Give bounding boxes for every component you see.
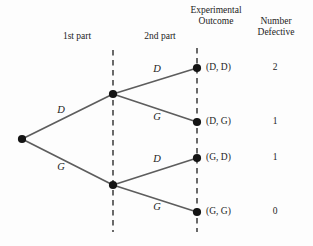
tree-nodes: [18, 64, 201, 216]
node-outcome-dd: [193, 64, 201, 72]
header-experimental-outcome-line2: Outcome: [185, 16, 247, 26]
branch-label-stage1-defective: D: [53, 104, 69, 115]
header-experimental-outcome-line1: Experimental: [185, 5, 247, 15]
node-first-good: [109, 181, 117, 189]
tree-branches: [22, 68, 197, 212]
count-value-dd: 2: [268, 62, 282, 72]
branch-label-stage1-good: G: [53, 161, 69, 172]
branch-root-to-d: [22, 94, 113, 139]
node-outcome-dg: [193, 118, 201, 126]
header-stage-1st-part: 1st part: [48, 31, 106, 41]
header-number-defective-line2: Defective: [252, 27, 300, 37]
count-value-dg: 1: [268, 116, 282, 126]
branch-label-stage2-gd: D: [149, 153, 165, 164]
count-value-gg: 0: [268, 206, 282, 216]
header-stage-2nd-part: 2nd part: [131, 31, 189, 41]
header-number-defective-line1: Number: [252, 16, 300, 26]
branch-label-stage2-dd: D: [149, 63, 165, 74]
node-outcome-gd: [193, 154, 201, 162]
node-first-defective: [109, 90, 117, 98]
outcome-label-dg: (D, G): [206, 116, 231, 126]
count-value-gd: 1: [268, 152, 282, 162]
outcome-label-gd: (G, D): [206, 152, 231, 162]
node-root: [18, 135, 26, 143]
outcome-label-gg: (G, G): [206, 206, 231, 216]
branch-label-stage2-dg: G: [149, 111, 165, 122]
node-outcome-gg: [193, 208, 201, 216]
tree-diagram-figure: Experimental Outcome Number Defective 1s…: [0, 0, 313, 246]
outcome-label-dd: (D, D): [206, 62, 231, 72]
branch-label-stage2-gg: G: [149, 201, 165, 212]
